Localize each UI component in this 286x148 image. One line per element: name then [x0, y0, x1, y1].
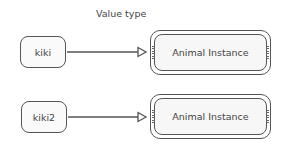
instance-box-2: Animal Instance [150, 94, 271, 139]
variable-box-kiki2: kiki2 [21, 101, 67, 133]
arrow-row-1 [67, 48, 146, 57]
instance-box-1: Animal Instance [150, 30, 271, 75]
tick-marks-right-icon [266, 110, 269, 124]
variable-label: kiki2 [33, 112, 55, 123]
arrow-row-2 [68, 113, 146, 122]
tick-marks-left-icon [152, 46, 155, 60]
variable-label: kiki [35, 47, 51, 58]
instance-inner: Animal Instance [154, 34, 267, 71]
instance-inner: Animal Instance [154, 98, 267, 135]
instance-label: Animal Instance [172, 47, 248, 58]
instance-label: Animal Instance [172, 111, 248, 122]
tick-marks-right-icon [266, 46, 269, 60]
variable-box-kiki: kiki [20, 36, 66, 68]
tick-marks-left-icon [152, 110, 155, 124]
